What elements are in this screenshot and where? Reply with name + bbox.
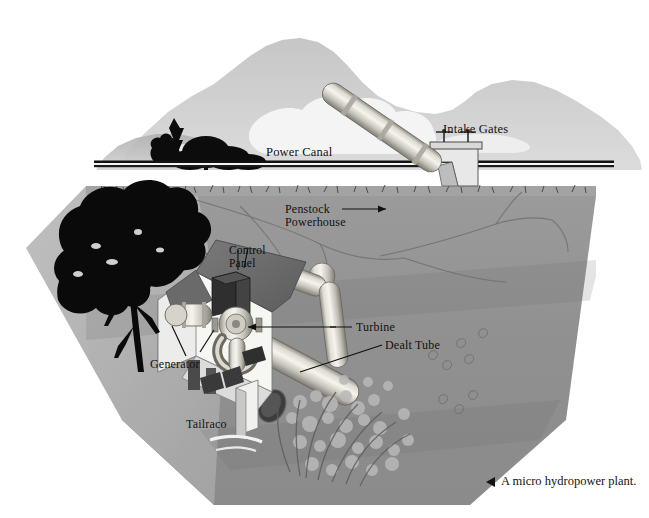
- label-generator: Generator: [150, 358, 200, 371]
- label-control-panel-line2: Panel: [229, 257, 256, 270]
- figure-caption: A micro hydropower plant.: [486, 474, 636, 489]
- caption-left-triangle-icon: [486, 477, 495, 487]
- label-intake-gates: Intake Gates: [443, 122, 508, 136]
- label-control-panel-line1: Control: [229, 244, 266, 257]
- label-tailraco: Tailraco: [186, 418, 227, 431]
- hydropower-diagram: [0, 0, 649, 518]
- label-power-canal: Power Canal: [266, 145, 332, 159]
- caption-text: A micro hydropower plant.: [501, 474, 636, 489]
- label-turbine: Turbine: [356, 321, 395, 334]
- label-powerhouse: Powerhouse: [285, 216, 346, 229]
- power-canal-channel: [94, 161, 614, 168]
- generator-unit: [165, 302, 212, 328]
- label-dealt-tube: Dealt Tube: [385, 339, 440, 352]
- figure-page: Figure — micro hydropower plant layout: [0, 0, 649, 518]
